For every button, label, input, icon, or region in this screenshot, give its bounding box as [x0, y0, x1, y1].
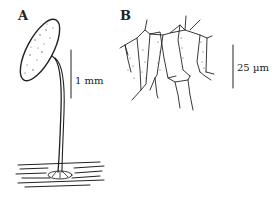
- panel-label-b: B: [120, 8, 131, 23]
- stalk: [52, 56, 61, 172]
- panel-a-drawing: [13, 14, 104, 187]
- scale-label-b: 25 µm: [237, 62, 269, 73]
- figure-drawing: [0, 0, 274, 200]
- panel-label-a: A: [18, 8, 28, 23]
- scale-label-a: 1 mm: [75, 75, 104, 86]
- sporocarp-head: [13, 14, 68, 86]
- panel-b-drawing: [120, 16, 233, 110]
